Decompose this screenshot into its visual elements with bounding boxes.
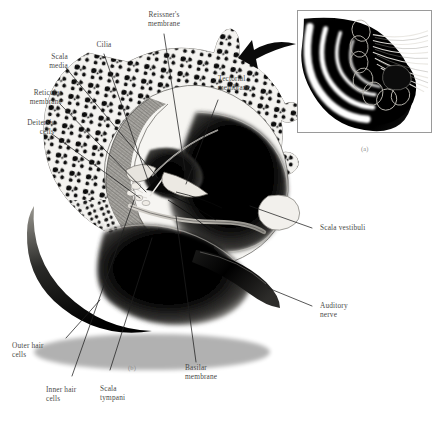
label-basilar-membrane: Basilar membrane: [185, 363, 247, 381]
label-scala-vestibuli: Scala vestibuli: [320, 223, 412, 232]
label-cilia: Cilia: [78, 40, 130, 49]
label-tectorial-membrane: Tectorial membrane: [218, 74, 282, 92]
label-deiterss-cells: Deiters's cells: [0, 118, 54, 136]
cochlea-figure: Reissner's membrane Cilia Scala media Re…: [0, 0, 448, 425]
label-scala-media: Scala media: [8, 52, 68, 70]
label-reissners-membrane: Reissner's membrane: [124, 10, 204, 28]
osseous-spiral-lamina: [258, 195, 299, 230]
label-scala-tympani: Scala tympani: [100, 384, 154, 402]
label-inner-hair-cells: Inner hair cells: [46, 385, 106, 403]
cochlea-spiral-inset-panel: [297, 10, 432, 133]
label-outer-hair-cells: Outer hair cells: [12, 341, 72, 359]
cochlea-spiral-illustration: [298, 11, 431, 132]
panel-tag-b: (b): [128, 364, 136, 371]
label-reticular-membrane: Reticular membrane: [0, 88, 62, 106]
panel-tag-a: (a): [361, 145, 369, 152]
label-auditory-nerve: Auditory nerve: [320, 301, 382, 319]
